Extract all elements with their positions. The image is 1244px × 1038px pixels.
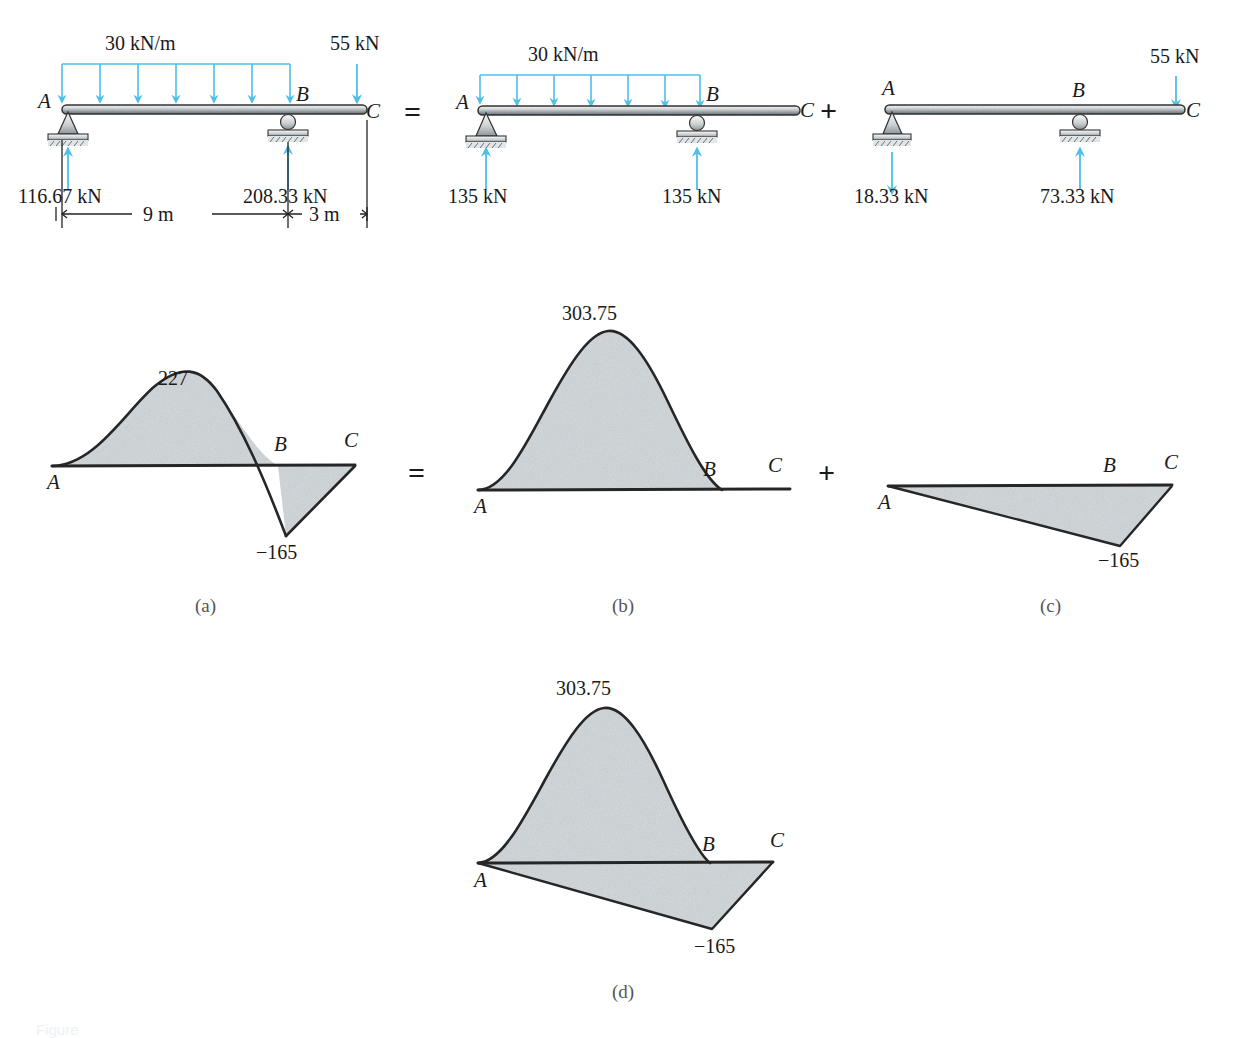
figure-caption: Figure (36, 1022, 79, 1037)
roller-support-beam-total (268, 115, 308, 143)
udl-label-beam-udl: 30 kN/m (528, 44, 599, 64)
operator-equals-row1: = (404, 97, 421, 127)
axis-label-a-diagram-d: A (474, 870, 487, 891)
operator-equals-row2: = (408, 458, 425, 488)
reaction-label-left-beam-total: 116.67 kN (18, 186, 102, 206)
moment-diagram-d-graphic (478, 708, 773, 929)
point-load-label-beam-total: 55 kN (330, 33, 379, 53)
reaction-label-left-beam-udl: 135 kN (448, 186, 507, 206)
moment-value-min-a: −165 (256, 542, 297, 562)
caption-a: (a) (195, 596, 216, 615)
pin-support-beam-point (873, 112, 911, 146)
operator-plus-row1: + (820, 96, 837, 126)
pin-support-beam-udl (466, 113, 506, 148)
caption-b: (b) (612, 596, 634, 615)
point-label-b-beam-total: B (296, 84, 309, 105)
point-label-a-beam-udl: A (456, 92, 469, 113)
reaction-label-right-beam-udl: 135 kN (662, 186, 721, 206)
point-label-a-beam-total: A (38, 91, 51, 112)
caption-c: (c) (1040, 596, 1061, 615)
beam-body-beam-total (62, 105, 367, 114)
moment-diagram-b-graphic (478, 331, 790, 490)
moment-diagram-c-graphic (888, 485, 1172, 546)
axis-label-c-diagram-d: C (770, 830, 784, 851)
point-label-b-beam-point: B (1072, 80, 1085, 101)
pin-support-beam-total (48, 112, 88, 146)
caption-d: (d) (612, 982, 634, 1001)
beam-body-beam-point (885, 105, 1185, 114)
moment-value-peak-b: 303.75 (562, 303, 617, 323)
roller-support-beam-udl (677, 116, 717, 144)
axis-label-b-diagram-c: B (1103, 455, 1116, 476)
moment-value-min-c: −165 (1098, 550, 1139, 570)
moment-value-peak-a: 227 (158, 368, 188, 388)
point-label-a-beam-point: A (882, 78, 895, 99)
axis-label-a-diagram-b: A (474, 496, 487, 517)
dimension-label-span-ab: 9 m (143, 204, 174, 224)
udl-arrows-beam-udl (480, 75, 700, 104)
point-label-b-beam-udl: B (706, 84, 719, 105)
point-load-label-beam-point: 55 kN (1150, 46, 1199, 66)
axis-label-c-diagram-b: C (768, 455, 782, 476)
axis-label-c-diagram-c: C (1164, 452, 1178, 473)
beam-point-graphic (873, 76, 1185, 190)
point-label-c-beam-total: C (366, 101, 380, 122)
axis-label-c-diagram-a: C (344, 430, 358, 451)
axis-label-b-diagram-d: B (702, 834, 715, 855)
point-label-c-beam-udl: C (800, 100, 814, 121)
axis-label-a-diagram-a: A (47, 472, 60, 493)
roller-support-beam-point (1060, 115, 1100, 143)
axis-label-a-diagram-c: A (878, 492, 891, 513)
reaction-label-right-beam-point: 73.33 kN (1040, 186, 1114, 206)
beam-body-beam-udl (478, 106, 800, 115)
axis-label-b-diagram-a: B (274, 434, 287, 455)
point-label-c-beam-point: C (1186, 100, 1200, 121)
moment-value-peak-d: 303.75 (556, 678, 611, 698)
reaction-label-left-beam-point: 18.33 kN (854, 186, 928, 206)
moment-diagram-a-graphic (52, 371, 355, 536)
beam-udl-graphic (466, 75, 800, 190)
axis-label-b-diagram-b: B (703, 459, 716, 480)
udl-arrows-beam-total (62, 64, 290, 99)
operator-plus-row2: + (818, 458, 835, 488)
moment-value-min-d: −165 (694, 936, 735, 956)
dimension-label-span-bc: 3 m (309, 204, 340, 224)
udl-label-beam-total: 30 kN/m (105, 33, 176, 53)
